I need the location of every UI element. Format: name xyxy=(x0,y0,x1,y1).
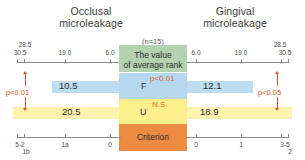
bar-u-right-value: 18.9 xyxy=(200,106,219,117)
right-p-arrow-shaft-top xyxy=(277,74,278,86)
top-axis-right-label-2: 30.5 xyxy=(272,49,298,56)
right-p-arrow-down-icon xyxy=(275,108,279,111)
top-axis-right-tick-2 xyxy=(281,59,282,63)
bar-criterion-label: Criterion xyxy=(119,132,187,142)
right-title-line2: microleakage xyxy=(175,18,295,30)
top-axis-right-label-1: 19.0 xyxy=(228,49,254,56)
left-p-arrow-shaft-top xyxy=(25,74,26,86)
chart-canvas: Occlusal microleakage Gingival microleak… xyxy=(0,0,305,160)
right-title-line1: Gingival xyxy=(175,6,295,18)
top-axis-left-label-1: 19.0 xyxy=(52,49,78,56)
left-p-value-label: p<0.01 xyxy=(6,88,29,97)
left-p-arrow-down-icon xyxy=(23,108,27,111)
bottom-axis-right-tick-2 xyxy=(281,134,282,138)
bar-average-rank-label-line1: The value xyxy=(113,50,193,60)
bar-f-left-value: 10.5 xyxy=(59,80,78,91)
bottom-axis-left-tick-2 xyxy=(110,134,111,138)
top-axis-left-tick-0 xyxy=(17,59,18,63)
top-axis-left-tick-2 xyxy=(110,59,111,63)
left-title-line2: microleakage xyxy=(26,18,156,30)
bottom-axis-left-tick-0 xyxy=(17,134,18,138)
bar-average-rank-label-line2: of average rank xyxy=(113,60,193,70)
top-axis-right-line xyxy=(186,62,288,63)
left-title-line1: Occlusal xyxy=(26,6,156,18)
bottom-axis-left-line xyxy=(17,137,121,138)
bar-f-significance: p<0.01 xyxy=(150,74,175,83)
top-axis-left-tick-1 xyxy=(65,59,66,63)
top-axis-left-line xyxy=(17,62,121,63)
right-column-title: Gingival microleakage xyxy=(175,6,295,29)
right-p-value-label: p<0.05 xyxy=(258,88,281,97)
bottom-axis-right-tick-0 xyxy=(196,134,197,138)
left-column-title: Occlusal microleakage xyxy=(26,6,156,29)
bottom-axis-left-tick-1 xyxy=(65,134,66,138)
bottom-axis-right-label-0: 0 xyxy=(183,141,209,148)
bottom-axis-right-label-2: 3-5 xyxy=(272,141,298,148)
bottom-axis-right-line xyxy=(186,137,288,138)
right-p-arrow-up-icon xyxy=(275,71,279,74)
top-axis-right-tick-0 xyxy=(196,59,197,63)
top-axis-right-tick-2b xyxy=(288,59,289,63)
bottom-axis-left-label-0: 5-2 xyxy=(7,141,33,148)
bar-f-right-value: 12.1 xyxy=(203,80,222,91)
bottom-axis-left-tick-0b xyxy=(24,134,25,138)
top-axis-left-label-0: 30.5 xyxy=(7,49,33,56)
bottom-axis-right-sub-label: 2 xyxy=(277,148,303,155)
bottom-axis-right-tick-1 xyxy=(241,134,242,138)
bar-average-rank-label: The value of average rank xyxy=(113,50,193,70)
bar-f-label: F xyxy=(141,81,147,91)
left-p-arrow-up-icon xyxy=(23,71,27,74)
bottom-axis-right-label-1: 1 xyxy=(228,141,254,148)
bottom-axis-left-label-1: 1a xyxy=(52,141,78,148)
top-axis-right-upper-label: 28.5 xyxy=(267,41,293,48)
top-axis-right-tick-1 xyxy=(241,59,242,63)
bar-u-label: U xyxy=(140,107,147,117)
bottom-axis-right-tick-2b xyxy=(288,134,289,138)
top-axis-left-upper-label: 28.5 xyxy=(12,41,38,48)
bottom-axis-left-label-2: 0 xyxy=(97,141,123,148)
top-axis-left-tick-0b xyxy=(24,59,25,63)
bar-u-significance: N.S. xyxy=(152,100,168,109)
bottom-axis-left-sub-label: 1b xyxy=(13,148,39,155)
bar-u-left-value: 20.5 xyxy=(62,106,81,117)
